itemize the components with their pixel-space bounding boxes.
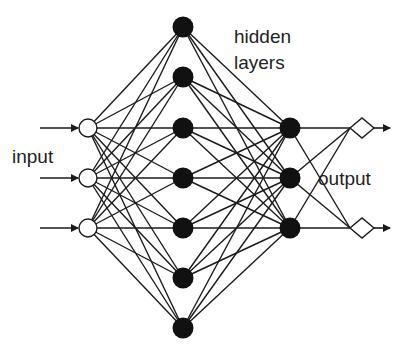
edge [88,27,183,128]
edge [183,178,290,328]
hidden-layers-label-line2: layers [234,52,285,73]
edge [88,77,183,228]
input-node [79,219,97,237]
hidden-2-node [280,168,301,189]
hidden-1-node [173,168,194,189]
edge [88,228,183,278]
hidden-1-node [173,218,194,239]
hidden-1-node [173,268,194,289]
input-node [79,169,97,187]
edge [183,77,290,128]
edge [88,228,183,328]
hidden-1-node [173,17,194,38]
edge [183,228,290,328]
hidden-2-node [280,218,301,239]
hidden-1-node [173,67,194,88]
hidden-layers-label-line1: hidden [234,26,291,47]
output-node [350,218,374,238]
connection-edges [88,27,350,328]
input-label: input [12,146,54,167]
neural-network-diagram: input hidden layers output [0,0,415,358]
edge [183,128,290,278]
input-node [79,119,97,137]
hidden-1-node [173,118,194,139]
hidden-2-node [280,118,301,139]
output-node [350,118,374,138]
edge [88,27,183,178]
hidden-1-node [173,318,194,339]
output-label: output [318,168,372,189]
